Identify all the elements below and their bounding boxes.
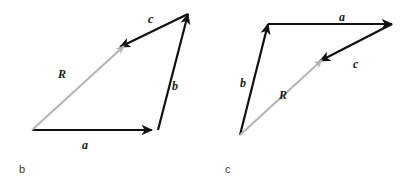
vector-line-group bbox=[32, 14, 392, 135]
vector-label-a-panel-b: a bbox=[82, 139, 88, 151]
vector-label-b-panel-b: b bbox=[172, 80, 178, 92]
vector-label-r-panel-b: R bbox=[58, 68, 66, 80]
vector-arrow-c-panel-b bbox=[120, 14, 188, 47]
vector-arrow-b-panel-b bbox=[158, 14, 188, 130]
vector-label-c-panel-b: c bbox=[148, 13, 153, 25]
vector-label-r-panel-c: R bbox=[279, 89, 287, 101]
panel-caption-c: c bbox=[225, 164, 231, 175]
vector-label-a-panel-c: a bbox=[339, 11, 345, 23]
vector-arrow-c-panel-c bbox=[320, 24, 392, 61]
vector-label-c-panel-c: c bbox=[353, 58, 358, 70]
vector-arrow-r-panel-b bbox=[32, 46, 124, 130]
vector-diagram-figure: abcRbbacRc bbox=[0, 0, 406, 184]
vector-label-b-panel-c: b bbox=[240, 77, 246, 89]
vector-canvas bbox=[0, 0, 406, 184]
panel-caption-b: b bbox=[19, 164, 25, 175]
